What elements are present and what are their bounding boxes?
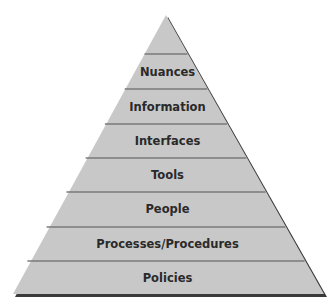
layer-policies: Policies [0,271,335,285]
layer-interfaces: Interfaces [0,134,335,148]
layer-nuances: Nuances [0,65,335,79]
layer-processes-procedures: Processes/Procedures [0,237,335,251]
pyramid-diagram: Nuances Information Interfaces Tools Peo… [0,0,335,306]
layer-information: Information [0,100,335,114]
pyramid-shape [0,0,335,306]
layer-people: People [0,202,335,216]
layer-tools: Tools [0,168,335,182]
